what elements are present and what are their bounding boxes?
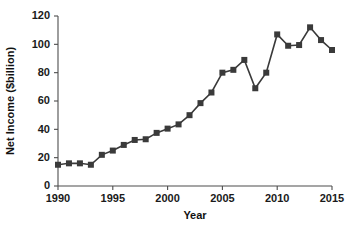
data-point-marker [165, 126, 171, 132]
data-point-marker [55, 162, 61, 168]
y-axis-title: Net Income ($billion) [4, 47, 16, 156]
data-point-marker [187, 112, 193, 118]
data-point-marker [88, 162, 94, 168]
y-tick-label: 80 [38, 66, 50, 78]
data-point-marker [208, 90, 214, 96]
x-tick-label: 1990 [46, 192, 70, 204]
x-tick-label: 2005 [210, 192, 234, 204]
net-income-line-chart: 020406080100120 199019952000200520102015… [0, 0, 345, 230]
data-point-marker [307, 24, 313, 30]
y-axis: 020406080100120 [32, 9, 58, 191]
data-point-marker [154, 130, 160, 136]
data-point-marker [197, 100, 203, 106]
y-tick-label: 120 [32, 9, 50, 21]
data-point-marker [252, 85, 258, 91]
data-point-marker [176, 121, 182, 127]
data-point-marker [329, 47, 335, 53]
x-tick-label: 2010 [265, 192, 289, 204]
y-tick-label: 0 [44, 179, 50, 191]
data-point-marker [66, 160, 72, 166]
data-point-marker [318, 37, 324, 43]
y-tick-label: 100 [32, 38, 50, 50]
y-tick-label: 20 [38, 151, 50, 163]
x-tick-label: 1995 [101, 192, 125, 204]
x-axis-ticks: 199019952000200520102015 [46, 186, 344, 204]
data-point-marker [274, 31, 280, 37]
data-point-marker [285, 43, 291, 49]
data-point-marker [132, 137, 138, 143]
data-point-marker [296, 42, 302, 48]
y-tick-label: 60 [38, 94, 50, 106]
y-tick-label: 40 [38, 123, 50, 135]
data-point-marker [241, 57, 247, 63]
data-point-marker [121, 142, 127, 148]
data-point-marker [77, 160, 83, 166]
x-axis: 199019952000200520102015 [46, 186, 344, 204]
data-point-marker [230, 67, 236, 73]
data-series-net-income [55, 24, 335, 167]
y-axis-ticks: 020406080100120 [32, 9, 58, 191]
data-point-marker [263, 70, 269, 76]
x-tick-label: 2015 [320, 192, 344, 204]
x-axis-title: Year [183, 209, 207, 221]
data-point-marker [110, 148, 116, 154]
x-tick-label: 2000 [155, 192, 179, 204]
data-point-marker [143, 136, 149, 142]
chart-page: 020406080100120 199019952000200520102015… [0, 0, 345, 230]
data-point-marker [99, 152, 105, 158]
data-point-marker [219, 70, 225, 76]
